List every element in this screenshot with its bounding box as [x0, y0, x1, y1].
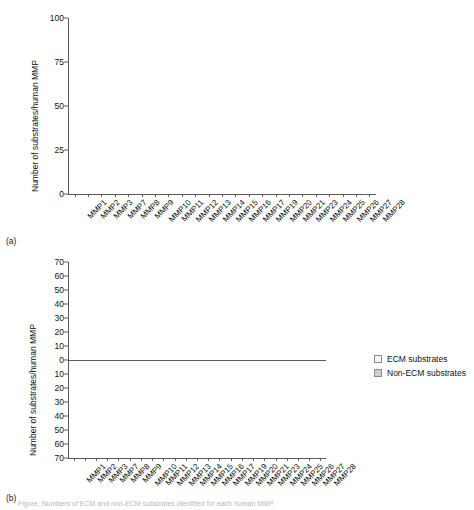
chart-a-bar [138, 55, 146, 194]
chart-a-y-tick-mark [64, 106, 68, 107]
chart-a-x-tick [343, 194, 344, 197]
chart-a-bar [151, 171, 159, 194]
chart-panel-b: (b) Number of substrates/human MMP 70605… [0, 250, 474, 510]
chart-b-bar-ecm [80, 322, 85, 360]
chart-b-x-tick [141, 458, 142, 461]
chart-a-bar [178, 120, 186, 194]
chart-b-x-tick [118, 458, 119, 461]
chart-a-bar [312, 187, 320, 194]
legend-item[interactable]: Non-ECM substrates [374, 367, 466, 378]
chart-b-y-tick-mark [64, 332, 68, 333]
chart-b-x-tick [276, 458, 277, 461]
chart-b-x-tick [298, 458, 299, 461]
chart-a-x-tick [75, 194, 76, 197]
chart-b-bar-ecm [91, 326, 96, 360]
chart-b-x-tick [320, 458, 321, 461]
chart-b-bar-nonecm [175, 360, 180, 430]
chart-a-y-tick-mark [64, 150, 68, 151]
chart-b-bar-ecm [181, 335, 186, 360]
chart-a-bar [325, 71, 333, 194]
chart-b-bars [68, 262, 326, 458]
legend-item[interactable]: ECM substrates [374, 353, 466, 364]
chart-b-bar-ecm [103, 340, 108, 360]
chart-b-bar-nonecm [74, 360, 79, 409]
chart-a-bars [68, 18, 376, 194]
chart-b-bar-ecm [125, 336, 130, 360]
chart-a-bar [111, 67, 119, 194]
chart-a-bar [338, 176, 346, 194]
chart-a-x-tick [262, 194, 263, 197]
chart-b-y-tick-mark [64, 346, 68, 347]
figure-container: (a) Number of substrates/human MMP 02550… [0, 0, 474, 510]
chart-b-bar-nonecm [208, 360, 213, 371]
chart-a-x-tick [276, 194, 277, 197]
chart-b-x-tick [85, 458, 86, 461]
chart-b-bar-nonecm [152, 360, 157, 385]
chart-a-x-tick [115, 194, 116, 197]
chart-b-x-tick [197, 458, 198, 461]
chart-a-bar [245, 178, 253, 194]
chart-b-bar-ecm [282, 342, 287, 360]
chart-a-bar [231, 171, 239, 194]
chart-a-x-tick [329, 194, 330, 197]
chart-a-bar [124, 125, 132, 194]
chart-a-bar [164, 162, 172, 194]
chart-a-bar [271, 176, 279, 194]
chart-a-x-tick [289, 194, 290, 197]
chart-b-bar-nonecm [107, 360, 112, 441]
chart-b-bar-ecm [69, 345, 74, 360]
chart-b-y-tick-mark [64, 276, 68, 277]
chart-a-plot-area [68, 18, 376, 194]
chart-b-y-axis-label: Number of substrates/human MMP [28, 324, 38, 456]
chart-b-x-tick [287, 458, 288, 461]
chart-a-x-tick [182, 194, 183, 197]
chart-a-x-tick [235, 194, 236, 197]
chart-b-bar-ecm [159, 338, 164, 360]
chart-b-y-tick-mark [64, 290, 68, 291]
legend-item-label: ECM substrates [387, 354, 447, 364]
chart-b-x-tick [74, 458, 75, 461]
chart-b-bar-nonecm [141, 360, 146, 367]
chart-b-bar-ecm [136, 352, 141, 360]
chart-b-y-tick-mark [64, 444, 68, 445]
chart-a-x-tick [209, 194, 210, 197]
chart-a-y-tick-mark [64, 18, 68, 19]
chart-b-y-tick-mark [64, 374, 68, 375]
chart-b-bar-ecm [114, 352, 119, 360]
chart-b-bar-nonecm [96, 360, 101, 433]
chart-b-bar-nonecm [118, 360, 123, 405]
chart-a-x-tick [195, 194, 196, 197]
chart-b-y-tick-mark [64, 318, 68, 319]
chart-b-bar-ecm [170, 328, 175, 360]
chart-b-legend: ECM substratesNon-ECM substrates [374, 353, 466, 381]
chart-b-x-tick [107, 458, 108, 461]
chart-b-bar-nonecm [276, 360, 281, 363]
chart-b-bar-ecm [260, 359, 265, 360]
chart-b-bar-nonecm [197, 360, 202, 363]
chart-b-bar-ecm [237, 347, 242, 360]
chart-b-x-tick [264, 458, 265, 461]
chart-b-x-tick [242, 458, 243, 461]
chart-b-x-tick [231, 458, 232, 461]
chart-b-bar-nonecm [298, 360, 303, 364]
chart-b-bar-nonecm [219, 360, 224, 366]
chart-b-y-tick-mark [64, 388, 68, 389]
chart-b-bar-nonecm [85, 360, 90, 454]
chart-a-x-tick [155, 194, 156, 197]
chart-a-x-tick [88, 194, 89, 197]
chart-b-y-tick-mark [64, 458, 68, 459]
chart-b-y-tick-mark [64, 360, 68, 361]
chart-a-x-tick [369, 194, 370, 197]
chart-b-y-tick-mark [64, 262, 68, 263]
chart-b-y-tick-mark [64, 304, 68, 305]
chart-b-y-tick-mark [64, 416, 68, 417]
panel-b-label: (b) [6, 493, 16, 503]
chart-a-bar [97, 60, 105, 194]
chart-a-x-tick [128, 194, 129, 197]
chart-b-x-tick [309, 458, 310, 461]
chart-b-bar-nonecm [186, 360, 191, 452]
chart-b-bar-nonecm [231, 360, 236, 366]
chart-a-bar [191, 66, 199, 194]
chart-b-x-tick [175, 458, 176, 461]
chart-a-y-tick-mark [64, 194, 68, 195]
